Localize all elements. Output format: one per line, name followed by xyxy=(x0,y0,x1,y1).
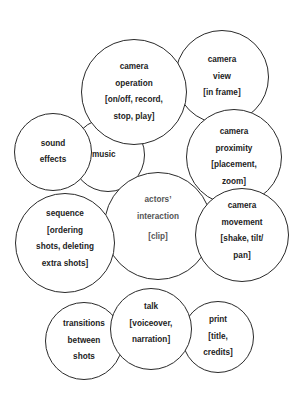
bubble-label-line: camera xyxy=(228,198,257,215)
bubble-label-line: [shake, tilt/ xyxy=(221,231,264,248)
bubble-label-line: sequence xyxy=(46,206,84,223)
bubble-label-line: actors’ xyxy=(145,192,172,209)
bubble-label-line: music xyxy=(92,147,116,164)
bubble-sound-effects: sound effects xyxy=(14,113,92,191)
bubble-label-line: effects xyxy=(40,152,66,169)
bubble-label-line: print xyxy=(209,312,227,329)
bubble-label-line: extra shots] xyxy=(42,256,88,273)
bubble-label-line: [on/off, record, xyxy=(105,92,163,109)
bubble-label-line: camera xyxy=(120,59,149,76)
bubble-label-line: [title, xyxy=(208,329,228,346)
bubble-label-line: [placement, xyxy=(211,157,257,174)
video-elements-bubble-diagram: camera view [in frame] camera proximity … xyxy=(0,0,301,398)
bubble-label-line: transitions xyxy=(63,316,105,333)
bubble-label-line: [ordering xyxy=(47,223,83,240)
bubble-label-line: camera xyxy=(220,124,249,141)
bubble-label-line: [clip] xyxy=(148,229,168,246)
bubble-sequence: sequence [ordering shots, deleting extra… xyxy=(15,193,115,293)
bubble-label-line: operation xyxy=(115,76,152,93)
bubble-print: print [title, credits] xyxy=(182,301,254,373)
bubble-label-line: [voiceover, xyxy=(130,316,173,333)
bubble-label-line: interaction xyxy=(137,209,179,226)
bubble-label-line: stop, play] xyxy=(114,109,155,126)
bubble-talk: talk [voiceover, narration] xyxy=(110,288,192,370)
bubble-label-line: movement xyxy=(222,215,263,232)
bubble-label-line: shots, deleting xyxy=(36,239,94,256)
bubble-label-line: camera xyxy=(208,52,237,69)
bubble-label-line: shots xyxy=(73,349,95,366)
bubble-label-line: between xyxy=(68,333,101,350)
bubble-label-line: view xyxy=(213,69,231,86)
bubble-label-line: pan] xyxy=(233,248,250,265)
bubble-camera-operation: camera operation [on/off, record, stop, … xyxy=(81,39,187,145)
bubble-camera-movement: camera movement [shake, tilt/ pan] xyxy=(195,188,289,282)
bubble-label-line: talk xyxy=(144,299,158,316)
bubble-label-line: [in frame] xyxy=(203,85,240,102)
bubble-label-line: credits] xyxy=(203,345,233,362)
bubble-label-line: sound xyxy=(41,136,66,153)
bubble-label-line: proximity xyxy=(216,141,253,158)
bubble-label-line: narration] xyxy=(132,332,170,349)
